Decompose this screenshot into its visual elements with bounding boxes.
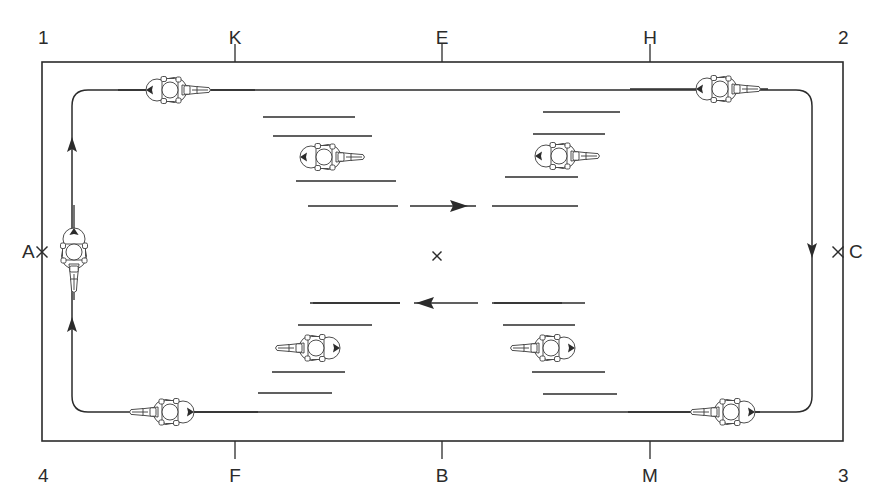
track-oval-path — [72, 90, 812, 412]
rider-left-center-rider-helmet — [66, 244, 82, 260]
rider-top-right — [696, 76, 761, 103]
rider-bottom-right-knee-right — [735, 399, 741, 404]
rider-left-center-knee-left — [83, 243, 88, 249]
rider-top-right-withers — [734, 85, 740, 93]
arena-canvas — [0, 0, 881, 502]
corner-2-label: 2 — [838, 28, 849, 47]
rider-top-left-knee-left — [161, 77, 167, 82]
rider-inner-lower-right-knee-left — [555, 357, 561, 362]
rider-bottom-left — [130, 399, 195, 426]
rider-inner-lower-right — [511, 335, 576, 362]
rider-bottom-left-knee-left — [174, 421, 180, 426]
marker-C-cross — [833, 247, 844, 258]
rider-inner-upper-left — [300, 144, 365, 171]
rider-top-left — [146, 77, 211, 104]
corner-1-label: 1 — [38, 28, 49, 47]
rider-inner-upper-right — [535, 143, 600, 170]
rider-top-right-hip-right — [726, 97, 731, 102]
rider-inner-lower-right-hip-right — [540, 335, 545, 340]
rider-inner-lower-right — [511, 335, 576, 362]
letter-tick-group — [235, 44, 650, 459]
corner-3-label: 3 — [838, 466, 849, 485]
rider-inner-lower-left-knee-left — [320, 357, 326, 362]
marker-B-label: B — [436, 466, 449, 485]
center-line-group — [308, 200, 585, 309]
rider-left-center-withers — [70, 266, 78, 272]
rider-top-right-hip-left — [726, 76, 731, 81]
rider-left-center-hip-left — [82, 258, 87, 263]
rider-bottom-right-hip-right — [720, 399, 725, 404]
rider-top-right-rider-helmet — [712, 81, 728, 97]
rider-inner-upper-right-hip-right — [565, 164, 570, 169]
rider-top-left-knee-right — [161, 99, 167, 104]
marker-M-label: M — [642, 466, 658, 485]
rider-inner-lower-left — [276, 335, 341, 362]
rider-top-left-hip-right — [176, 98, 181, 103]
marker-F-label: F — [229, 466, 241, 485]
rider-bottom-left-hip-right — [159, 399, 164, 404]
rider-inner-upper-left-hip-left — [330, 144, 335, 149]
rider-inner-lower-right-hip-left — [540, 356, 545, 361]
marker-K-label: K — [229, 28, 242, 47]
rider-inner-upper-left-hip-right — [330, 165, 335, 170]
arena-boundary-group — [42, 62, 843, 441]
rider-inner-lower-left-hip-right — [305, 335, 310, 340]
rider-figure-group — [61, 76, 769, 426]
rider-left-center-knee-right — [61, 243, 66, 249]
rider-bottom-left-withers — [150, 408, 156, 416]
rider-bottom-right — [691, 399, 756, 426]
rider-inner-upper-right-knee-left — [550, 143, 556, 148]
rider-top-left-hip-left — [176, 77, 181, 82]
rider-inner-upper-right-withers — [573, 152, 579, 160]
rider-inner-lower-left-knee-right — [320, 335, 326, 340]
rider-inner-upper-right-hip-left — [565, 143, 570, 148]
rider-bottom-left-hip-left — [159, 420, 164, 425]
rider-inner-upper-right-rider-helmet — [551, 148, 567, 164]
rider-bottom-right-withers — [711, 408, 717, 416]
rider-top-left-withers — [184, 86, 190, 94]
rider-top-left — [146, 77, 211, 104]
rider-inner-upper-right-knee-right — [550, 165, 556, 170]
center-point-X — [433, 252, 442, 261]
marker-H-label: H — [643, 28, 657, 47]
rider-bottom-left-knee-right — [174, 399, 180, 404]
rider-top-right — [696, 76, 761, 103]
track-path-group — [67, 90, 817, 412]
arena-boundary-rect — [42, 62, 843, 441]
rider-inner-lower-left — [276, 335, 341, 362]
rider-inner-upper-left-rider-helmet — [316, 149, 332, 165]
rider-bottom-right-hip-left — [720, 420, 725, 425]
rider-inner-upper-right — [535, 143, 600, 170]
marker-C-label: C — [849, 242, 863, 261]
cross-marker-group — [37, 247, 844, 261]
rider-inner-upper-left-withers — [338, 153, 344, 161]
dressage-arena-diagram: KEHFBMAC1234 — [0, 0, 881, 502]
marker-E-label: E — [436, 28, 449, 47]
rider-top-right-knee-left — [711, 76, 717, 81]
rider-inner-lower-left-rider-helmet — [308, 340, 324, 356]
rider-inner-upper-left — [300, 144, 365, 171]
rider-bottom-right-rider-helmet — [723, 404, 739, 420]
rider-bottom-right-knee-left — [735, 421, 741, 426]
rider-bottom-left — [130, 399, 195, 426]
marker-A-label: A — [22, 242, 35, 261]
rider-inner-lower-right-withers — [531, 344, 537, 352]
rider-inner-lower-left-hip-left — [305, 356, 310, 361]
rider-left-center — [61, 228, 88, 293]
rider-inner-lower-right-rider-helmet — [543, 340, 559, 356]
rider-top-right-knee-right — [711, 98, 717, 103]
rider-inner-lower-left-withers — [296, 344, 302, 352]
rider-top-left-rider-helmet — [162, 82, 178, 98]
rider-bottom-right — [691, 399, 756, 426]
rider-inner-lower-right-knee-right — [555, 335, 561, 340]
rider-inner-upper-left-knee-right — [315, 166, 321, 171]
rider-bottom-left-rider-helmet — [162, 404, 178, 420]
rider-inner-upper-left-knee-left — [315, 144, 321, 149]
corner-4-label: 4 — [38, 466, 49, 485]
rider-left-center — [61, 228, 88, 293]
rider-left-center-hip-right — [61, 258, 66, 263]
